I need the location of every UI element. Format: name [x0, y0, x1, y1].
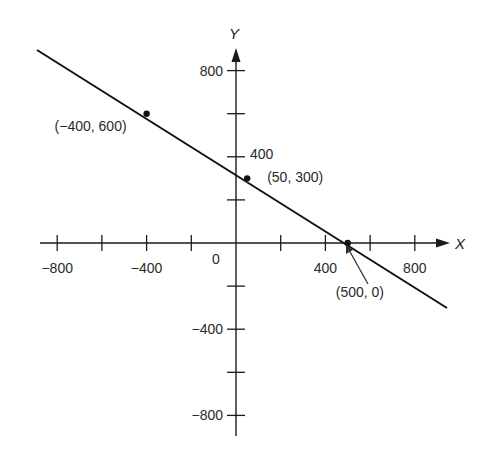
- data-line: [37, 50, 447, 308]
- point-label: (−400, 600): [55, 118, 127, 134]
- y-tick-label: −800: [191, 407, 223, 423]
- x-axis-label: X: [454, 235, 466, 252]
- y-tick-label: 400: [250, 146, 274, 162]
- x-tick-label: −400: [131, 260, 163, 276]
- y-axis-label: Y: [229, 25, 240, 42]
- y-tick-label: −400: [191, 321, 223, 337]
- coordinate-plot: X −800−4000400800 Y 800400−400−800 (−400…: [0, 0, 495, 456]
- data-point: [244, 175, 250, 181]
- data-point: [143, 111, 149, 117]
- point-label: (50, 300): [267, 169, 323, 185]
- x-tick-label: −800: [41, 260, 73, 276]
- x-axis: X −800−4000400800: [40, 235, 466, 276]
- point-label: (500, 0): [336, 284, 384, 300]
- x-tick-labels: −800−4000400800: [41, 251, 426, 276]
- data-point: [345, 240, 351, 246]
- x-tick-label: 0: [212, 251, 220, 267]
- y-axis: Y 800400−400−800: [191, 25, 273, 436]
- x-tick-label: 800: [403, 260, 427, 276]
- y-axis-arrow-icon: [232, 48, 241, 62]
- x-axis-arrow-icon: [436, 239, 450, 248]
- x-tick-label: 400: [314, 260, 338, 276]
- y-tick-label: 800: [200, 63, 224, 79]
